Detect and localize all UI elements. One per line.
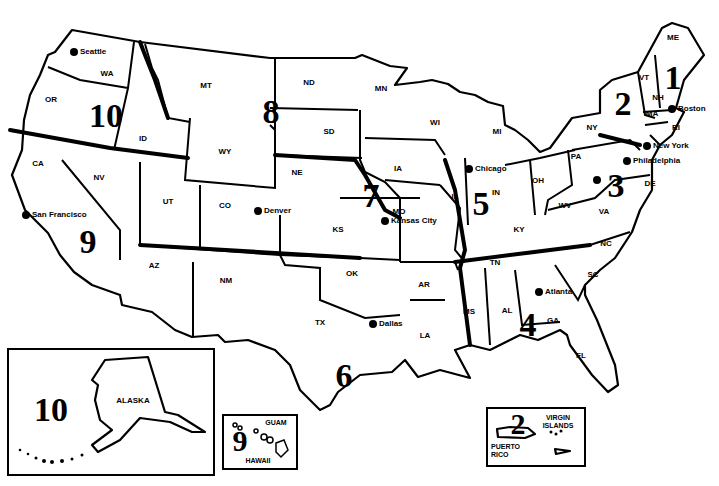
region-number-4: 4 (520, 308, 537, 342)
city-dot-icon (465, 165, 473, 173)
region-number-7: 7 (363, 179, 380, 213)
region-number-6: 6 (336, 359, 353, 393)
state-label-in: IN (492, 188, 500, 197)
state-label-wa: WA (101, 69, 114, 78)
city-dot-icon (535, 288, 543, 296)
state-label-co: CO (219, 201, 231, 210)
region-number-1: 1 (665, 61, 682, 95)
region-number-9: 9 (80, 225, 97, 259)
city-label: Denver (264, 206, 291, 215)
guam-label: GUAM (265, 419, 286, 426)
city-label: New York (653, 141, 689, 150)
state-label-oh: OH (532, 176, 544, 185)
state-label-ky: KY (513, 225, 524, 234)
state-label-ma: MA (646, 109, 658, 118)
state-label-vt: VT (639, 73, 649, 82)
state-label-az: AZ (149, 261, 160, 270)
state-label-nh: NH (652, 93, 664, 102)
state-label-la: LA (420, 331, 431, 340)
state-label-ms: MS (463, 307, 475, 316)
state-label-nd: ND (303, 78, 315, 87)
state-label-me: ME (667, 33, 679, 42)
city-dot-icon (668, 105, 676, 113)
city-label: Boston (678, 104, 706, 113)
state-label-ks: KS (332, 225, 343, 234)
state-label-mi: MI (493, 127, 502, 136)
state-label-ok: OK (346, 269, 358, 278)
city-dot-icon (369, 320, 377, 328)
puerto-rico-label: PUERTO RICO (491, 443, 521, 458)
state-label-nm: NM (220, 276, 232, 285)
city-label: Chicago (475, 164, 507, 173)
city-dot-icon (22, 211, 30, 219)
state-label-ia: IA (394, 164, 402, 173)
state-label-ne: NE (291, 168, 302, 177)
state-label-de: DE (644, 179, 655, 188)
hawaii-label: HAWAII (246, 457, 271, 464)
city-dot-icon (593, 176, 601, 184)
state-label-ut: UT (163, 197, 174, 206)
region-number-10: 10 (89, 99, 123, 133)
city-label: Kansas City (391, 216, 437, 225)
state-label-wy: WY (219, 147, 232, 156)
state-label-mo: MO (393, 207, 406, 216)
alaska-label: ALASKA (116, 396, 149, 405)
city-dot-icon (381, 217, 389, 225)
state-label-wi: WI (430, 118, 440, 127)
state-label-ca: CA (32, 159, 44, 168)
city-label: Seattle (80, 47, 106, 56)
state-label-sc: SC (587, 270, 598, 279)
state-label-va: VA (599, 207, 610, 216)
alaska-region-number: 10 (34, 393, 68, 427)
state-label-id: ID (139, 134, 147, 143)
state-label-nc: NC (600, 239, 612, 248)
state-label-mt: MT (200, 81, 212, 90)
state-label-ga: GA (547, 316, 559, 325)
virgin-islands-label: VIRGIN ISLANDS (538, 414, 578, 429)
pacific-region-number: 9 (233, 426, 248, 456)
state-label-nv: NV (93, 173, 104, 182)
region-number-2: 2 (615, 87, 632, 121)
city-dot-icon (254, 207, 262, 215)
state-label-pa: PA (571, 152, 582, 161)
state-label-mn: MN (375, 84, 387, 93)
region-number-5: 5 (473, 187, 490, 221)
caribbean-region-number: 2 (511, 409, 526, 439)
region-number-3: 3 (608, 169, 625, 203)
state-label-ri: RI (672, 123, 680, 132)
state-label-tx: TX (315, 318, 325, 327)
city-label: Dallas (379, 319, 403, 328)
state-label-wv: WV (559, 201, 572, 210)
state-label-il: IL (451, 192, 458, 201)
city-dot-icon (70, 48, 78, 56)
state-label-ar: AR (418, 280, 430, 289)
state-label-or: OR (45, 95, 57, 104)
state-label-sd: SD (323, 127, 334, 136)
city-dot-icon (623, 157, 631, 165)
region-number-8: 8 (263, 95, 280, 129)
city-label: Philadelphia (633, 156, 680, 165)
city-label: Atlanta (545, 287, 572, 296)
state-label-fl: FL (576, 351, 586, 360)
city-label: San Francisco (32, 210, 87, 219)
state-label-al: AL (502, 306, 513, 315)
state-label-ny: NY (586, 123, 597, 132)
city-dot-icon (643, 142, 651, 150)
state-label-tn: TN (490, 258, 501, 267)
